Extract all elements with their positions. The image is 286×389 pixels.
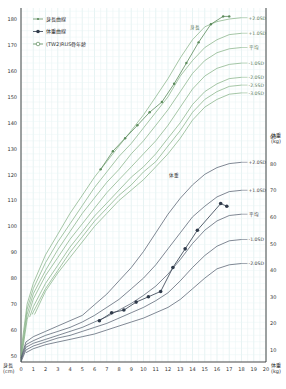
- y-left-tick-label: 150: [7, 94, 17, 100]
- y-right-tick-label: 80: [270, 161, 276, 167]
- x-tick-label: 5: [81, 366, 84, 372]
- y-left-tick-label: 50: [11, 353, 17, 359]
- x-tick-label: 12: [165, 366, 171, 372]
- y-left-tick-label: 90: [11, 249, 17, 255]
- weight-sd-label: +1.0SD: [249, 188, 267, 193]
- y-left-tick-label: 160: [7, 68, 17, 74]
- y-right-tick-label: 60: [270, 214, 276, 220]
- y-left-tick-label: 140: [7, 120, 17, 126]
- weight-sd-label: -1.0SD: [249, 237, 265, 242]
- y-left-tick-label: 80: [11, 275, 17, 281]
- x-tick-label: 19: [251, 366, 257, 372]
- height-sd-label: -1.0SD: [249, 61, 265, 66]
- chart-background: [0, 0, 286, 389]
- height-data-point: [148, 111, 150, 113]
- height-data-point: [210, 23, 212, 25]
- y-right-tick-label: 70: [270, 187, 276, 193]
- x-tick-label: 15: [202, 366, 208, 372]
- weight-data-point: [183, 247, 187, 251]
- y-right-tick-label: 40: [270, 267, 276, 273]
- height-data-point: [124, 137, 126, 139]
- height-data-point: [197, 41, 199, 43]
- x-tick-label: 11: [153, 366, 159, 372]
- right-axis-unit-top: (kg): [271, 138, 281, 145]
- x-tick-label: 1: [32, 366, 35, 372]
- y-left-tick-label: 120: [7, 172, 17, 178]
- height-data-point: [228, 15, 230, 17]
- y-left-tick-label: 180: [7, 16, 17, 22]
- height-sd-label: -3.0SD: [249, 91, 265, 96]
- right-axis-unit: (kg): [271, 368, 281, 375]
- x-tick-label: 13: [177, 366, 183, 372]
- weight-data-point: [225, 204, 229, 208]
- weight-data-point: [110, 311, 114, 315]
- y-right-tick-label: 30: [270, 294, 276, 300]
- height-sd-label: +1.0SD: [249, 31, 267, 36]
- weight-data-point: [147, 295, 151, 299]
- weight-data-point: [196, 228, 200, 232]
- weight-sd-label: +2.0SD: [249, 160, 267, 165]
- weight-data-point: [98, 319, 102, 323]
- y-right-tick-label: 20: [270, 320, 276, 326]
- x-tick-label: 20: [263, 366, 269, 372]
- weight-data-point: [159, 290, 163, 294]
- weight-sd-label: -2.0SD: [249, 261, 265, 266]
- legend-marker-icon: [36, 30, 40, 34]
- weight-data-point: [134, 300, 138, 304]
- y-left-tick-label: 170: [7, 42, 17, 48]
- x-tick-label: 18: [238, 366, 244, 372]
- x-tick-label: 10: [140, 366, 146, 372]
- y-right-tick-label: 50: [270, 241, 276, 247]
- x-tick-label: 17: [226, 366, 232, 372]
- legend-label: 身長曲線: [46, 16, 66, 23]
- x-tick-label: 6: [93, 366, 96, 372]
- legend-label: 体重曲線: [46, 28, 66, 35]
- x-tick-label: 9: [130, 366, 133, 372]
- height-sd-label: -2.0SD: [249, 75, 265, 80]
- x-tick-label: 4: [68, 366, 71, 372]
- x-tick-label: 14: [189, 366, 195, 372]
- height-data-point: [99, 168, 101, 170]
- weight-data-point: [122, 308, 126, 312]
- height-data-point: [136, 124, 138, 126]
- height-data-point: [112, 150, 114, 152]
- y-left-tick-label: 100: [7, 223, 17, 229]
- height-data-point: [173, 83, 175, 85]
- y-left-tick-label: 60: [11, 327, 17, 333]
- x-tick-label: 8: [117, 366, 120, 372]
- growth-chart: 0123456789101112131415161718192050607080…: [0, 0, 286, 389]
- x-tick-label: 16: [214, 366, 220, 372]
- y-left-tick-label: 110: [7, 197, 17, 203]
- weight-group-label: 体重: [169, 172, 179, 179]
- legend-open-circle-icon: [36, 42, 40, 46]
- height-data-point: [161, 101, 163, 103]
- legend-marker-icon: [37, 18, 39, 20]
- weight-sd-label: 平均: [249, 211, 259, 218]
- x-tick-label: 3: [56, 366, 59, 372]
- height-data-point: [222, 15, 224, 17]
- height-data-point: [185, 62, 187, 64]
- weight-data-point: [171, 266, 175, 270]
- grid: [21, 8, 266, 362]
- left-axis-unit: (cm): [3, 368, 15, 374]
- x-tick-label: 0: [19, 366, 22, 372]
- weight-data-point: [219, 202, 223, 206]
- y-left-tick-label: 130: [7, 146, 17, 152]
- height-sd-label: 平均: [249, 44, 259, 51]
- height-group-label: 身長: [190, 24, 200, 31]
- height-sd-label: +2.0SD: [249, 16, 267, 21]
- legend-label: (TW2)RUS骨年齢: [46, 41, 86, 48]
- y-left-tick-label: 70: [11, 301, 17, 307]
- height-sd-label: -2.5SD: [249, 83, 265, 88]
- y-right-tick-label: 10: [270, 347, 276, 353]
- x-tick-label: 2: [44, 366, 47, 372]
- x-tick-label: 7: [105, 366, 108, 372]
